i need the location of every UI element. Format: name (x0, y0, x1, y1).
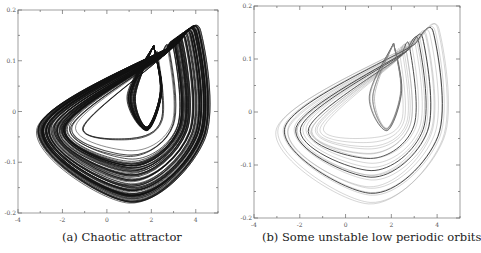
x-tick-label: 0 (344, 221, 348, 228)
x-tick-label: -4 (251, 221, 257, 228)
x-tick-label: -2 (60, 216, 66, 223)
plot-frame (254, 6, 460, 218)
x-tick-label: -2 (297, 221, 303, 228)
panel-b: -4-2024-0.2-0.100.10.2 (240, 2, 460, 228)
panel-a: -4-2024-0.2-0.100.10.2 (4, 6, 218, 223)
y-tick-label: 0 (12, 108, 16, 115)
inner-loop-curve (369, 43, 402, 131)
y-tick-label: -0.2 (4, 209, 16, 216)
y-tick-label: 0 (248, 108, 252, 115)
y-tick-label: -0.1 (4, 158, 16, 165)
y-tick-label: -0.1 (240, 161, 252, 168)
y-tick-label: 0.1 (242, 55, 252, 62)
trajectory-curve (276, 24, 448, 204)
caption-b: (b) Some unstable low periodic orbits (262, 230, 481, 244)
x-tick-label: -4 (15, 216, 21, 223)
y-tick-label: 0.2 (6, 6, 16, 13)
caption-a: (a) Chaotic attractor (62, 230, 182, 244)
x-tick-label: 4 (194, 216, 198, 223)
x-tick-label: 2 (149, 216, 153, 223)
x-tick-label: 2 (389, 221, 393, 228)
y-tick-label: 0.1 (6, 57, 16, 64)
trajectory-group (276, 24, 449, 204)
trajectory-curve (288, 31, 435, 187)
y-tick-label: 0.2 (242, 2, 252, 9)
y-tick-label: -0.2 (240, 214, 252, 221)
trajectory-group (36, 25, 210, 203)
x-tick-label: 0 (105, 216, 109, 223)
trajectory-curve (278, 24, 449, 203)
x-tick-label: 4 (435, 221, 439, 228)
